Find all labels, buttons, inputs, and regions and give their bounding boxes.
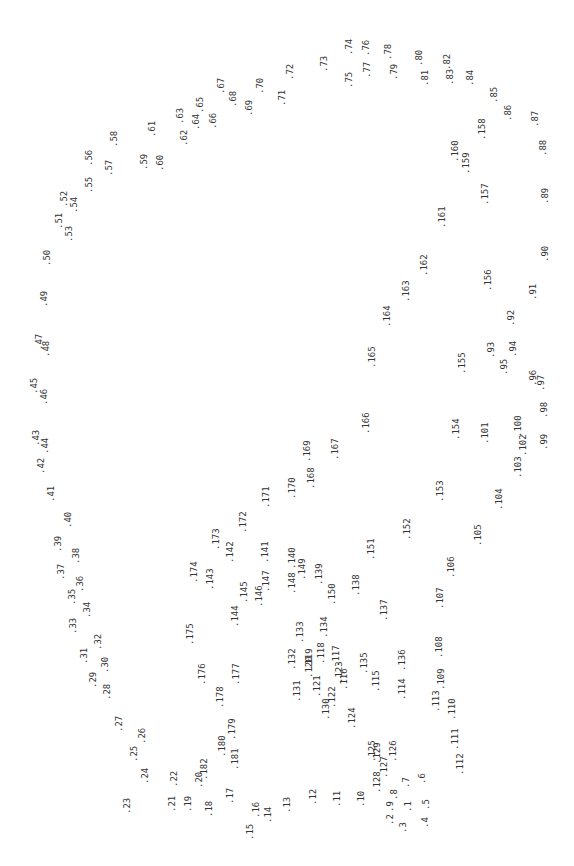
- point-label: .67: [217, 78, 226, 94]
- point-label: .101: [481, 422, 490, 444]
- point-label: .130: [322, 698, 331, 720]
- point-label: .22: [170, 771, 179, 787]
- point-label: .102: [519, 434, 528, 456]
- point-label: .33: [69, 618, 78, 634]
- point-label: .111: [451, 728, 460, 750]
- point-label: .68: [229, 91, 238, 107]
- dot-plot-canvas: .1.2.3.4.5.6.7.8.9.10.11.12.13.14.15.16.…: [0, 0, 574, 866]
- point-label: .84: [466, 70, 475, 86]
- point-label: .66: [209, 113, 218, 129]
- point-label: .39: [54, 536, 63, 552]
- point-label: .89: [541, 188, 550, 204]
- point-label: .60: [156, 155, 165, 171]
- point-label: .30: [101, 657, 110, 673]
- point-label: .81: [421, 70, 430, 86]
- point-label: .91: [529, 284, 538, 300]
- point-label: .62: [180, 130, 189, 146]
- point-label: .180: [218, 735, 227, 757]
- point-label: .79: [390, 64, 399, 80]
- point-label: .72: [286, 64, 295, 80]
- point-label: .1: [404, 801, 413, 812]
- point-label: .49: [40, 291, 49, 307]
- point-label: .90: [541, 246, 550, 262]
- point-label: .44: [41, 438, 50, 454]
- point-label: .161: [438, 206, 447, 228]
- point-label: .97: [537, 375, 546, 391]
- point-label: .4: [421, 817, 430, 828]
- point-label: .55: [85, 177, 94, 193]
- point-label: .152: [403, 518, 412, 540]
- point-label: .59: [140, 154, 149, 170]
- point-label: .181: [231, 748, 240, 770]
- point-label: .148: [288, 572, 297, 594]
- point-label: .172: [239, 511, 248, 533]
- point-label: .134: [320, 616, 329, 638]
- point-label: .50: [43, 250, 52, 266]
- point-label: .10: [357, 791, 366, 807]
- point-label: .38: [72, 548, 81, 564]
- point-label: .75: [345, 72, 354, 88]
- point-label: .17: [226, 788, 235, 804]
- point-label: .162: [420, 254, 429, 276]
- point-label: .56: [85, 150, 94, 166]
- point-label: .166: [362, 412, 371, 434]
- point-label: .7: [402, 777, 411, 788]
- point-label: .51: [55, 213, 64, 229]
- point-label: .176: [198, 663, 207, 685]
- point-label: .99: [540, 434, 549, 450]
- point-label: .129: [373, 742, 382, 764]
- point-label: .126: [389, 740, 398, 762]
- point-label: .151: [367, 538, 376, 560]
- point-label: .155: [458, 352, 467, 374]
- point-label: .170: [288, 477, 297, 499]
- point-label: .11: [333, 791, 342, 807]
- point-label: .145: [240, 581, 249, 603]
- point-label: .149: [298, 558, 307, 580]
- point-label: .13: [283, 797, 292, 813]
- point-label: .74: [345, 39, 354, 55]
- point-label: .73: [320, 56, 329, 72]
- point-label: .150: [328, 583, 337, 605]
- point-label: .85: [490, 87, 499, 103]
- point-label: .167: [331, 438, 340, 460]
- point-label: .106: [447, 556, 456, 578]
- point-label: .77: [363, 62, 372, 78]
- point-label: .16: [252, 802, 261, 818]
- point-label: .15: [246, 824, 255, 840]
- point-label: .174: [190, 561, 199, 583]
- point-label: .87: [531, 111, 540, 127]
- point-label: .40: [64, 512, 73, 528]
- point-label: .128: [373, 771, 382, 793]
- point-label: .93: [487, 342, 496, 358]
- point-label: .163: [402, 280, 411, 302]
- point-label: .118: [317, 642, 326, 664]
- point-label: .19: [184, 796, 193, 812]
- point-label: .78: [384, 44, 393, 60]
- point-label: .143: [206, 568, 215, 590]
- point-label: .105: [474, 524, 483, 546]
- point-label: .53: [65, 226, 74, 242]
- point-label: .138: [352, 574, 361, 596]
- point-label: .124: [348, 707, 357, 729]
- point-label: .103: [514, 456, 523, 478]
- point-label: .69: [245, 100, 254, 116]
- point-label: .137: [380, 599, 389, 621]
- point-label: .112: [456, 753, 465, 775]
- point-label: .6: [418, 773, 427, 784]
- point-label: .58: [110, 131, 119, 147]
- point-label: .108: [435, 636, 444, 658]
- point-label: .52: [60, 191, 69, 207]
- point-label: .132: [288, 648, 297, 670]
- point-label: .37: [57, 564, 66, 580]
- point-label: .168: [307, 467, 316, 489]
- point-label: .131: [293, 680, 302, 702]
- point-label: .61: [148, 121, 157, 137]
- point-label: .98: [540, 402, 549, 418]
- point-label: .92: [507, 310, 516, 326]
- point-label: .28: [103, 684, 112, 700]
- point-label: .179: [228, 718, 237, 740]
- point-label: .123: [335, 661, 344, 683]
- point-label: .63: [176, 108, 185, 124]
- point-label: .26: [138, 728, 147, 744]
- point-label: .48: [42, 341, 51, 357]
